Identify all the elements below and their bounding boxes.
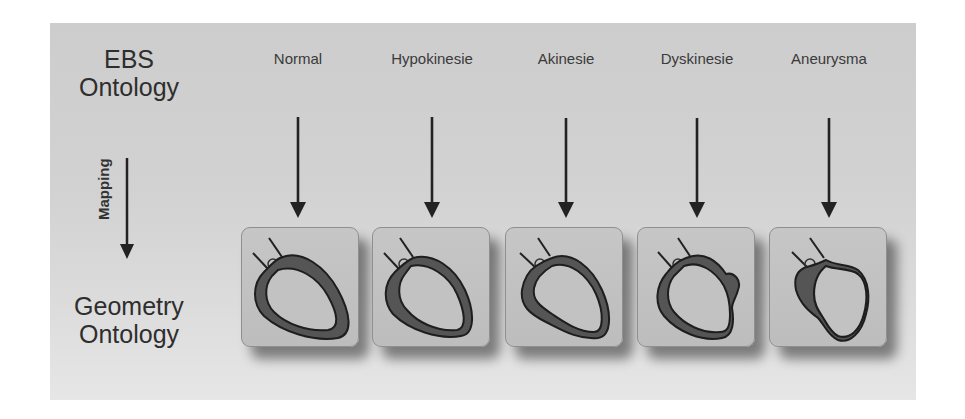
arrow-down-icon-dyskinesie xyxy=(689,118,705,218)
arrow-down-icon-hypokinesie xyxy=(424,117,440,218)
arrow-down-icon-akinesie xyxy=(558,118,574,218)
heart-box-dyskinesie xyxy=(637,227,755,347)
arrow-down-icon-normal xyxy=(290,117,306,218)
aneurysma-heart-icon xyxy=(770,228,888,348)
arrow-down-icon-aneurysma xyxy=(821,118,837,218)
mapping-arrow-icon xyxy=(120,158,134,259)
akinesie-heart-icon xyxy=(506,228,624,348)
arrows-layer xyxy=(0,0,965,419)
normal-heart-icon xyxy=(242,228,360,348)
heart-box-akinesie xyxy=(505,227,623,347)
hypokinesie-heart-icon xyxy=(373,228,491,348)
heart-box-normal xyxy=(241,227,359,347)
heart-box-aneurysma xyxy=(769,227,887,347)
heart-box-hypokinesie xyxy=(372,227,490,347)
dyskinesie-heart-icon xyxy=(638,228,756,348)
